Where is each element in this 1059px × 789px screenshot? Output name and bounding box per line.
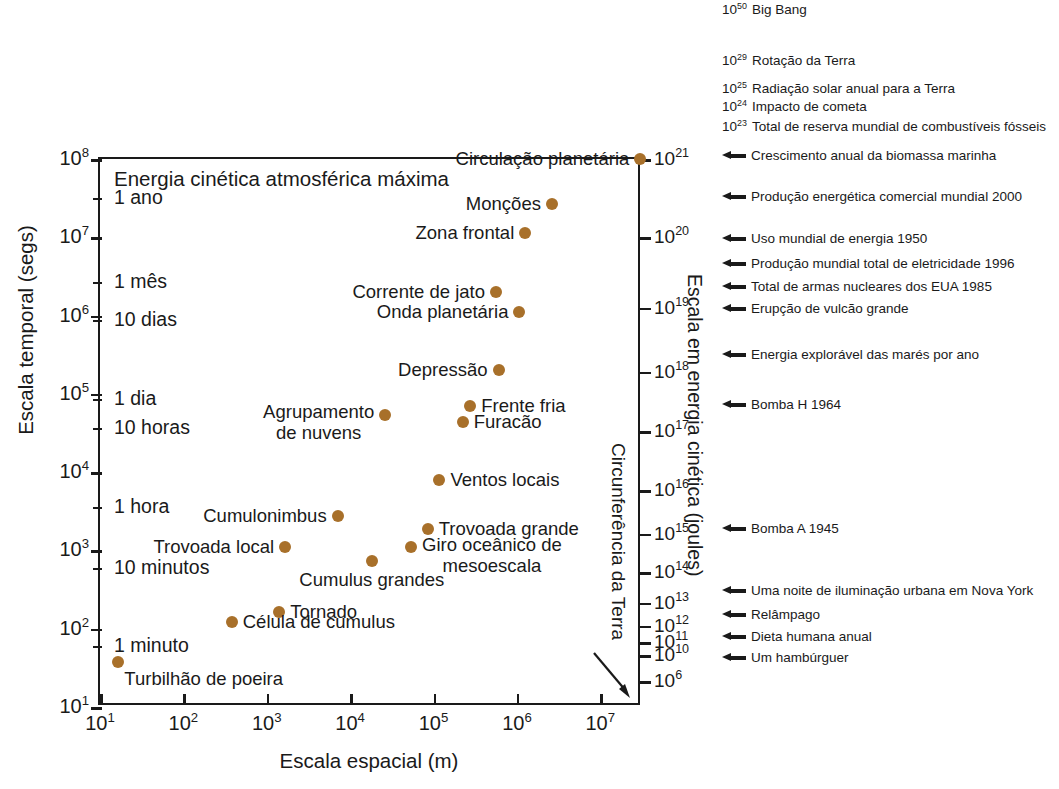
x-tick-mark xyxy=(517,694,520,705)
right-tick-label: 1021 xyxy=(654,148,689,170)
energy-annotation-item: Uso mundial de energia 1950 xyxy=(722,231,927,246)
scatter-point[interactable] xyxy=(279,541,291,553)
y-time-tick-mark xyxy=(93,198,102,200)
scatter-point[interactable] xyxy=(519,227,531,239)
scatter-point-label: Cumulonimbus xyxy=(203,506,326,527)
y-tick-label: 102 xyxy=(59,617,89,640)
right-tick-mark xyxy=(640,431,651,434)
energy-annotation-item: Crescimento anual da biomassa marinha xyxy=(722,148,996,163)
scatter-point[interactable] xyxy=(226,616,238,628)
scatter-point[interactable] xyxy=(457,416,469,428)
energy-annotation-item: 1024Impacto de cometa xyxy=(722,99,867,114)
energy-annotation-label: Um hambúrguer xyxy=(751,650,849,665)
scatter-point-label: Furacão xyxy=(474,412,542,433)
y-time-tick-mark xyxy=(93,507,102,509)
y-time-marker-label: 1 hora xyxy=(114,495,169,518)
left-arrow-icon xyxy=(722,610,746,619)
left-arrow-icon xyxy=(722,586,746,595)
energy-annotation-label: Radiação solar anual para a Terra xyxy=(752,81,955,96)
scatter-point-label: Onda planetária xyxy=(377,301,509,322)
y-tick-mark xyxy=(91,159,102,162)
y-time-marker-label: 10 dias xyxy=(114,308,177,331)
left-arrow-icon xyxy=(722,259,746,268)
y-tick-label: 105 xyxy=(59,382,89,405)
right-tick-mark xyxy=(640,308,651,311)
left-arrow-icon xyxy=(722,350,746,359)
energy-annotation-item: Bomba H 1964 xyxy=(722,397,841,412)
scatter-point[interactable] xyxy=(405,541,417,553)
earth-circumference-label: Circunferência da Terra xyxy=(607,443,629,640)
chart-title: Energia cinética atmosférica máxima xyxy=(114,167,449,191)
right-tick-label: 1010 xyxy=(654,644,689,666)
x-tick-label: 105 xyxy=(419,712,449,735)
left-arrow-icon xyxy=(722,282,746,291)
energy-exponent-value: 1023 xyxy=(722,119,747,134)
left-arrow-icon xyxy=(722,192,746,201)
right-tick-mark xyxy=(640,681,651,684)
y-tick-mark xyxy=(91,629,102,632)
scatter-point[interactable] xyxy=(422,523,434,535)
x-tick-mark xyxy=(350,694,353,705)
x-tick-label: 106 xyxy=(502,712,532,735)
x-axis-title: Escala espacial (m) xyxy=(280,749,459,773)
left-arrow-icon xyxy=(722,632,746,641)
energy-annotation-label: Total de reserva mundial de combustíveis… xyxy=(752,119,1046,134)
scatter-point[interactable] xyxy=(546,198,558,210)
scatter-point[interactable] xyxy=(493,364,505,376)
figure-canvas: Energia cinética atmosférica máxima 1081… xyxy=(0,0,1059,789)
right-tick-label: 1013 xyxy=(654,591,689,613)
y-tick-mark xyxy=(91,316,102,319)
right-tick-mark xyxy=(640,534,651,537)
energy-annotation-item: Produção mundial total de eletricidade 1… xyxy=(722,256,1014,271)
scatter-point[interactable] xyxy=(513,306,525,318)
energy-exponent-value: 1024 xyxy=(722,99,747,114)
energy-annotation-label: Produção energética comercial mundial 20… xyxy=(751,189,1022,204)
scatter-point-label: Agrupamentode nuvens xyxy=(263,402,374,443)
energy-exponent-value: 1050 xyxy=(722,2,747,17)
energy-annotation-item: Erupção de vulcão grande xyxy=(722,301,909,316)
plot-area: Energia cinética atmosférica máxima 1081… xyxy=(98,157,640,705)
y-tick-label: 104 xyxy=(59,460,89,483)
scatter-point-label: Circulação planetária xyxy=(456,149,630,170)
energy-annotation-item: Bomba A 1945 xyxy=(722,521,839,536)
y-time-marker-label: 10 minutos xyxy=(114,556,209,579)
earth-circumference-arrow-icon xyxy=(592,651,638,701)
energy-annotation-label: Impacto de cometa xyxy=(752,99,867,114)
right-tick-mark xyxy=(640,237,651,240)
scatter-point[interactable] xyxy=(332,510,344,522)
scatter-point[interactable] xyxy=(366,555,378,567)
right-axis-title: Escala em energia cinética (joules) xyxy=(683,274,706,576)
energy-annotation-label: Uso mundial de energia 1950 xyxy=(751,231,927,246)
y-tick-label: 107 xyxy=(59,225,89,248)
energy-annotation-label: Dieta humana anual xyxy=(751,629,872,644)
y-time-marker-label: 1 mês xyxy=(114,270,167,293)
energy-annotation-item: 1023Total de reserva mundial de combustí… xyxy=(722,119,1046,134)
x-tick-mark xyxy=(434,694,437,705)
scatter-point-label: Ventos locais xyxy=(450,470,559,491)
energy-annotation-label: Erupção de vulcão grande xyxy=(751,301,909,316)
energy-annotation-label: Total de armas nucleares dos EUA 1985 xyxy=(751,279,992,294)
scatter-point[interactable] xyxy=(634,153,646,165)
y-time-marker-label: 10 horas xyxy=(114,416,190,439)
energy-annotation-label: Big Bang xyxy=(752,2,807,17)
right-tick-mark xyxy=(640,372,651,375)
y-time-tick-mark xyxy=(93,428,102,430)
scatter-point[interactable] xyxy=(490,286,502,298)
right-tick-mark xyxy=(640,626,651,629)
left-arrow-icon xyxy=(722,400,746,409)
energy-annotation-item: Dieta humana anual xyxy=(722,629,872,644)
right-tick-label: 106 xyxy=(654,670,682,692)
energy-annotation-item: Energia explorável das marés por ano xyxy=(722,347,979,362)
x-tick-label: 101 xyxy=(85,712,115,735)
y-time-marker-label: 1 minuto xyxy=(114,634,189,657)
right-tick-mark xyxy=(640,603,651,606)
x-tick-label: 107 xyxy=(586,712,616,735)
x-tick-mark xyxy=(267,694,270,705)
scatter-point[interactable] xyxy=(433,474,445,486)
x-tick-label: 104 xyxy=(335,712,365,735)
energy-annotation-item: 1050Big Bang xyxy=(722,2,807,17)
y-tick-mark xyxy=(91,394,102,397)
scatter-point[interactable] xyxy=(112,656,124,668)
energy-annotation-label: Bomba A 1945 xyxy=(751,521,839,536)
scatter-point[interactable] xyxy=(379,409,391,421)
